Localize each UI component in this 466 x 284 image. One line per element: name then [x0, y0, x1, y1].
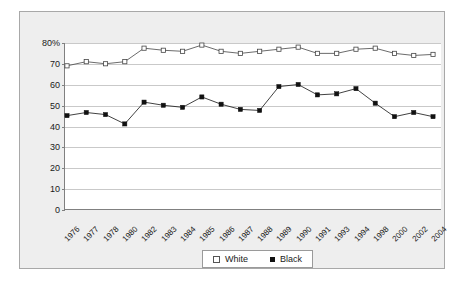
y-axis-tick-label: 30 [50, 142, 60, 152]
chart-frame: 80%706050403020100 197619771978198019821… [19, 11, 445, 269]
x-axis-tick-label: 1978 [101, 225, 120, 244]
data-point-white [373, 46, 377, 50]
data-point-white [335, 51, 339, 55]
y-axis-tick-label: 60 [50, 80, 60, 90]
filled-square-icon [270, 257, 275, 262]
chart-legend: White Black [202, 250, 313, 268]
data-point-black [373, 101, 377, 105]
data-point-black [65, 114, 69, 118]
data-point-white [277, 47, 281, 51]
x-axis-tick-label: 1988 [256, 225, 275, 244]
data-point-white [123, 60, 127, 64]
data-point-black [219, 102, 223, 106]
y-axis-tick-label: 0 [55, 205, 60, 215]
x-axis-tick-label: 1980 [121, 225, 140, 244]
legend-item-white: White [213, 254, 248, 264]
y-axis-tick-label: 40 [50, 122, 60, 132]
legend-label-black: Black [280, 254, 302, 264]
data-point-white [219, 49, 223, 53]
data-point-black [84, 110, 88, 114]
data-point-black [392, 115, 396, 119]
x-axis-tick-label: 2002 [410, 225, 429, 244]
y-axis-tick-label: 20 [50, 163, 60, 173]
data-point-black [315, 93, 319, 97]
x-axis-tick-label: 1991 [314, 225, 333, 244]
data-point-white [315, 51, 319, 55]
y-axis-tick-label: 80% [42, 38, 60, 48]
series-line-black [67, 85, 433, 124]
x-axis-tick-label: 1984 [179, 225, 198, 244]
data-point-black [412, 110, 416, 114]
data-point-black [277, 84, 281, 88]
data-point-black [180, 105, 184, 109]
data-point-black [123, 122, 127, 126]
data-point-black [200, 95, 204, 99]
y-axis-tick-label: 70 [50, 59, 60, 69]
x-axis-tick-label: 1993 [333, 225, 352, 244]
data-point-white [142, 46, 146, 50]
y-axis-tick-label: 10 [50, 184, 60, 194]
x-axis-tick-label: 1989 [275, 225, 294, 244]
x-axis-tick-label: 1982 [140, 225, 159, 244]
x-axis-tick-label: 2004 [430, 225, 449, 244]
data-point-black [161, 103, 165, 107]
legend-item-black: Black [270, 254, 302, 264]
data-point-black [103, 113, 107, 117]
legend-label-white: White [225, 254, 248, 264]
data-point-white [354, 47, 358, 51]
x-axis-tick-label: 1977 [82, 225, 101, 244]
data-point-white [200, 43, 204, 47]
data-point-white [161, 48, 165, 52]
data-point-white [392, 51, 396, 55]
data-point-white [238, 51, 242, 55]
data-point-white [65, 64, 69, 68]
plot-area: 80%706050403020100 [64, 43, 441, 210]
data-point-black [258, 108, 262, 112]
data-point-white [431, 52, 435, 56]
data-point-black [335, 92, 339, 96]
data-point-white [296, 45, 300, 49]
data-point-white [103, 62, 107, 66]
data-point-black [142, 100, 146, 104]
data-point-white [258, 49, 262, 53]
data-point-white [412, 53, 416, 57]
data-point-black [354, 87, 358, 91]
data-point-black [238, 107, 242, 111]
series-group [65, 43, 441, 209]
data-point-black [296, 82, 300, 86]
x-axis-tick-label: 1998 [372, 225, 391, 244]
series-line-white [67, 45, 433, 66]
data-point-white [180, 49, 184, 53]
y-axis-tick-label: 50 [50, 101, 60, 111]
x-axis-tick-label: 1985 [198, 225, 217, 244]
x-axis-tick-label: 1990 [294, 225, 313, 244]
x-axis-tick-label: 1987 [236, 225, 255, 244]
x-axis-tick-label: 1983 [159, 225, 178, 244]
data-point-white [84, 60, 88, 64]
x-axis-tick-label: 2000 [391, 225, 410, 244]
x-axis-tick-label: 1976 [63, 225, 82, 244]
data-point-black [431, 115, 435, 119]
y-axis-tick-mark [62, 210, 65, 211]
chart-plot-wrapper: 80%706050403020100 197619771978198019821… [45, 32, 441, 210]
open-square-icon [213, 256, 220, 263]
x-axis-tick-label: 1994 [352, 225, 371, 244]
x-axis-tick-label: 1986 [217, 225, 236, 244]
